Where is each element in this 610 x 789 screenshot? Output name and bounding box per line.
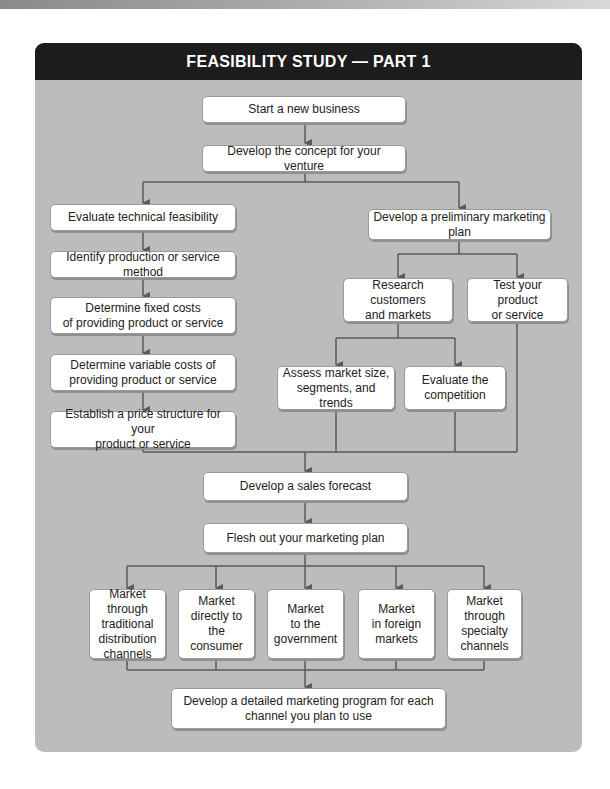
node-determine-variable-costs: Determine variable costs of providing pr… xyxy=(50,354,236,391)
node-identify-production-method: Identify production or service method xyxy=(50,251,236,278)
node-determine-fixed-costs: Determine fixed costs of providing produ… xyxy=(50,297,236,334)
node-establish-price-structure: Establish a price structure for your pro… xyxy=(50,411,236,448)
node-develop-concept: Develop the concept for your venture xyxy=(202,145,406,172)
node-assess-market-size: Assess market size, segments, and trends xyxy=(277,366,395,410)
node-evaluate-technical-feasibility: Evaluate technical feasibility xyxy=(50,204,236,231)
top-decorative-band xyxy=(0,0,610,9)
panel-title: FEASIBILITY STUDY — PART 1 xyxy=(35,43,582,80)
node-channel-specialty: Market through specialty channels xyxy=(447,589,522,659)
node-evaluate-competition: Evaluate the competition xyxy=(404,366,506,410)
node-preliminary-marketing-plan: Develop a preliminary marketing plan xyxy=(368,209,551,240)
node-channel-direct-consumer: Market directly to the consumer xyxy=(178,589,255,659)
node-test-product: Test your product or service xyxy=(467,278,568,322)
node-research-customers: Research customers and markets xyxy=(343,278,453,322)
node-flesh-out-marketing-plan: Flesh out your marketing plan xyxy=(203,523,408,553)
node-detailed-marketing-program: Develop a detailed marketing program for… xyxy=(171,688,446,729)
node-sales-forecast: Develop a sales forecast xyxy=(203,472,408,501)
node-channel-traditional-distribution: Market through traditional distribution … xyxy=(89,589,166,659)
node-channel-government: Market to the government xyxy=(267,589,344,659)
node-channel-foreign-markets: Market in foreign markets xyxy=(358,589,435,659)
node-start-business: Start a new business xyxy=(202,96,406,123)
